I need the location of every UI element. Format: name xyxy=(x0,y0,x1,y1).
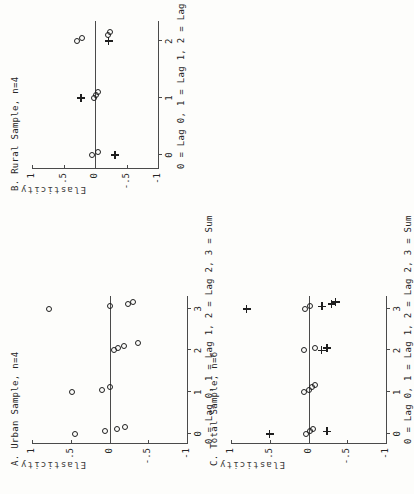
x-tick-label-C-1: 1 xyxy=(392,389,402,394)
panel-C-plot: 01231.50-.5-1 xyxy=(231,296,386,444)
y-tick-A-1 xyxy=(71,440,72,444)
x-tick-B-0 xyxy=(158,154,162,155)
x-tick-C-2 xyxy=(386,349,390,350)
x-tick-label-C-3: 3 xyxy=(392,306,402,311)
panel-B-inner: B. Rural Sample, n=4 0121.50-.5-1 0 = La… xyxy=(8,7,196,195)
y-tick-label-C-2: 0 xyxy=(303,448,313,466)
x-tick-B-2 xyxy=(158,40,162,41)
data-point xyxy=(310,426,316,432)
x-tick-A-2 xyxy=(187,349,191,350)
panel-A-plot: 01231.50-.5-1 xyxy=(32,296,187,444)
y-tick-A-3 xyxy=(148,440,149,444)
figure-page: B. Rural Sample, n=4 0121.50-.5-1 0 = La… xyxy=(0,0,414,494)
data-point xyxy=(46,306,52,312)
data-point xyxy=(111,151,119,159)
x-tick-label-A-2: 2 xyxy=(193,348,203,353)
data-point xyxy=(77,94,85,102)
y-tick-label-A-4: -1 xyxy=(181,448,191,466)
y-tick-B-1 xyxy=(64,165,65,169)
panel-B: B. Rural Sample, n=4 0121.50-.5-1 0 = La… xyxy=(8,7,196,195)
y-tick-B-4 xyxy=(158,165,159,169)
y-tick-B-2 xyxy=(95,165,96,169)
y-tick-label-B-2: 0 xyxy=(89,173,99,191)
data-point xyxy=(122,424,128,430)
data-point xyxy=(318,302,326,310)
data-point xyxy=(69,389,75,395)
x-tick-label-B-2: 2 xyxy=(164,39,174,44)
data-point xyxy=(99,387,105,393)
zero-horizontal-line-A xyxy=(110,296,111,444)
data-point xyxy=(105,37,113,45)
panel-B-ylabel: Elasticity xyxy=(20,185,86,195)
data-point xyxy=(89,152,95,158)
data-point xyxy=(72,431,78,437)
y-tick-A-4 xyxy=(187,440,188,444)
data-point xyxy=(266,430,274,438)
data-point xyxy=(121,343,127,349)
zero-horizontal-line-C xyxy=(309,296,310,444)
y-tick-label-A-3: -.5 xyxy=(142,448,152,466)
y-tick-C-2 xyxy=(309,440,310,444)
x-tick-label-B-0: 0 xyxy=(164,152,174,157)
data-point xyxy=(107,29,113,35)
x-tick-label-A-0: 0 xyxy=(193,431,203,436)
panel-C-ylabel: Elasticity xyxy=(219,460,285,470)
y-tick-label-C-3: -.5 xyxy=(341,448,351,466)
x-tick-A-3 xyxy=(187,308,191,309)
y-tick-A-0 xyxy=(32,440,33,444)
panel-A: A. Urban Sample, n=4 01231.50-.5-1 0 = L… xyxy=(8,255,196,470)
x-tick-B-1 xyxy=(158,97,162,98)
x-tick-label-C-0: 0 xyxy=(392,431,402,436)
data-point xyxy=(307,303,313,309)
x-tick-C-1 xyxy=(386,391,390,392)
y-tick-label-B-4: -1 xyxy=(152,173,162,191)
data-point xyxy=(323,427,331,435)
data-point xyxy=(114,426,120,432)
panel-A-title: A. Urban Sample, n=4 xyxy=(10,352,20,466)
y-tick-C-4 xyxy=(386,440,387,444)
x-tick-label-A-3: 3 xyxy=(193,306,203,311)
y-tick-label-A-2: 0 xyxy=(104,448,114,466)
panel-B-plot: 0121.50-.5-1 xyxy=(32,21,158,169)
x-tick-A-1 xyxy=(187,391,191,392)
y-tick-C-1 xyxy=(270,440,271,444)
panel-C-title: C. Total Sample, n=6 xyxy=(209,352,219,466)
data-point xyxy=(102,428,108,434)
data-point xyxy=(79,35,85,41)
x-axis-line-C xyxy=(386,296,387,444)
panel-A-ylabel: Elasticity xyxy=(20,460,86,470)
x-axis-line-B xyxy=(158,21,159,169)
data-point xyxy=(312,382,318,388)
data-point xyxy=(107,303,113,309)
y-tick-C-3 xyxy=(347,440,348,444)
panel-C-inner: C. Total Sample, n=6 01231.50-.5-1 0 = L… xyxy=(207,255,403,470)
y-tick-C-0 xyxy=(231,440,232,444)
x-tick-C-0 xyxy=(386,433,390,434)
data-point xyxy=(135,340,141,346)
x-tick-label-A-1: 1 xyxy=(193,389,203,394)
panel-C-xlabel: 0 = Lag 0, 1 = Lag 1, 2 = Lag 2, 3 = Sum xyxy=(403,215,413,444)
x-tick-A-0 xyxy=(187,433,191,434)
data-point xyxy=(301,347,307,353)
y-tick-label-C-4: -1 xyxy=(380,448,390,466)
data-point xyxy=(130,299,136,305)
y-tick-label-B-3: -.5 xyxy=(121,173,131,191)
data-point xyxy=(243,305,251,313)
data-point xyxy=(95,89,101,95)
panel-A-inner: A. Urban Sample, n=4 01231.50-.5-1 0 = L… xyxy=(8,255,196,470)
x-axis-line-A xyxy=(187,296,188,444)
data-point xyxy=(332,298,340,306)
x-tick-label-C-2: 2 xyxy=(392,348,402,353)
panel-B-title: B. Rural Sample, n=4 xyxy=(10,77,20,191)
panel-B-xlabel: 0 = Lag 0, 1 = Lag 1, 2 = Lag xyxy=(176,3,186,169)
panel-C: C. Total Sample, n=6 01231.50-.5-1 0 = L… xyxy=(207,255,403,470)
data-point xyxy=(95,149,101,155)
data-point xyxy=(115,345,121,351)
data-point xyxy=(107,384,113,390)
y-tick-A-2 xyxy=(110,440,111,444)
x-tick-label-B-1: 1 xyxy=(164,95,174,100)
x-tick-C-3 xyxy=(386,308,390,309)
data-point xyxy=(323,344,331,352)
y-tick-B-0 xyxy=(32,165,33,169)
y-tick-B-3 xyxy=(127,165,128,169)
